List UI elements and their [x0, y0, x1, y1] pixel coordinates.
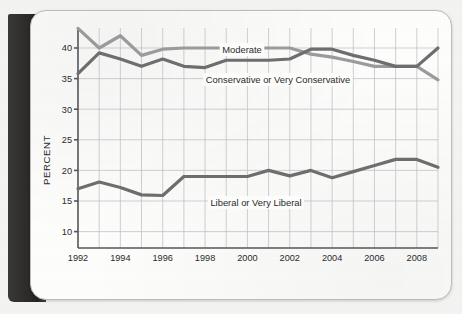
y-tick-35: 35	[62, 74, 72, 84]
y-tick-15: 15	[62, 196, 72, 206]
y-tick-labels: 10152025303540	[62, 43, 72, 237]
x-tick-labels: 199219941996199820002002200420062008	[68, 253, 427, 263]
y-tick-40: 40	[62, 43, 72, 53]
x-tick-2008: 2008	[407, 253, 427, 263]
chart-canvas: 10152025303540 1992199419961998200020022…	[30, 10, 450, 298]
x-tick-1998: 1998	[195, 253, 215, 263]
x-tick-1996: 1996	[152, 253, 172, 263]
moderate-series-label: Moderate	[222, 44, 262, 55]
x-tick-2006: 2006	[364, 253, 384, 263]
x-tick-2000: 2000	[237, 253, 257, 263]
x-tick-2004: 2004	[322, 253, 342, 263]
series-line-liberal	[78, 159, 438, 195]
x-tick-1992: 1992	[68, 253, 88, 263]
y-tick-25: 25	[62, 135, 72, 145]
x-tick-1994: 1994	[110, 253, 130, 263]
series-annotation-liberal: Liberal or Very Liberal	[208, 196, 304, 209]
y-tick-20: 20	[62, 166, 72, 176]
series-annotation-conservative: Conservative or Very Conservative	[203, 73, 352, 86]
series-annotation-moderate: Moderate	[220, 43, 265, 56]
y-tick-30: 30	[62, 105, 72, 115]
liberal-series-label: Liberal or Very Liberal	[210, 197, 301, 208]
x-tick-2002: 2002	[280, 253, 300, 263]
y-tick-10: 10	[62, 227, 72, 237]
scanned-page-background: 10152025303540 1992199419961998200020022…	[0, 0, 462, 314]
line-chart-figure: 10152025303540 1992199419961998200020022…	[30, 10, 450, 298]
conservative-series-label: Conservative or Very Conservative	[206, 74, 350, 85]
y-axis-title: PERCENT	[41, 135, 52, 185]
